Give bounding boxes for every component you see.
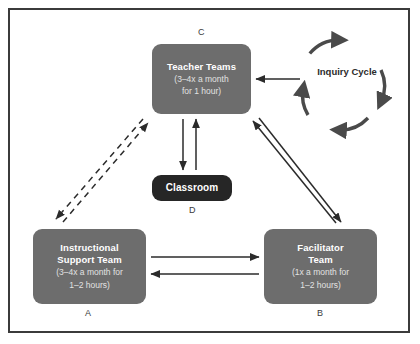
inquiry-cycle-label: Inquiry Cycle [305, 66, 389, 77]
node-teacher-teams[interactable]: Teacher Teams (3–4x a month for 1 hour) [152, 44, 251, 114]
node-teacher-teams-title: Teacher Teams [167, 61, 236, 73]
node-classroom-tag: D [189, 205, 196, 215]
node-facilitator-team[interactable]: Facilitator Team (1x a month for 1–2 hou… [264, 229, 377, 304]
node-classroom-title: Classroom [166, 182, 219, 194]
node-support-title-line2: Support Team [57, 254, 121, 266]
node-support-title-line1: Instructional [60, 242, 118, 254]
node-teacher-teams-sub-line2: for 1 hour) [182, 86, 221, 98]
node-instructional-support-team-tag: A [85, 308, 91, 318]
node-support-sub-line1: (3–4x a month for [56, 267, 123, 279]
node-classroom[interactable]: Classroom [152, 175, 232, 201]
node-facilitator-sub-line1: (1x a month for [292, 267, 349, 279]
node-instructional-support-team[interactable]: Instructional Support Team (3–4x a month… [33, 229, 146, 304]
node-facilitator-sub-line2: 1–2 hours) [300, 280, 341, 292]
node-facilitator-title-line1: Facilitator [297, 242, 344, 254]
node-teacher-teams-sub-line1: (3–4x a month [174, 74, 228, 86]
node-support-sub-line2: 1–2 hours) [69, 280, 110, 292]
node-facilitator-team-tag: B [317, 308, 323, 318]
node-teacher-teams-tag: C [198, 27, 205, 37]
node-facilitator-title-line2: Team [308, 254, 333, 266]
diagram-canvas: Inquiry Cycle Teacher Teams (3–4x a mont… [0, 0, 420, 344]
